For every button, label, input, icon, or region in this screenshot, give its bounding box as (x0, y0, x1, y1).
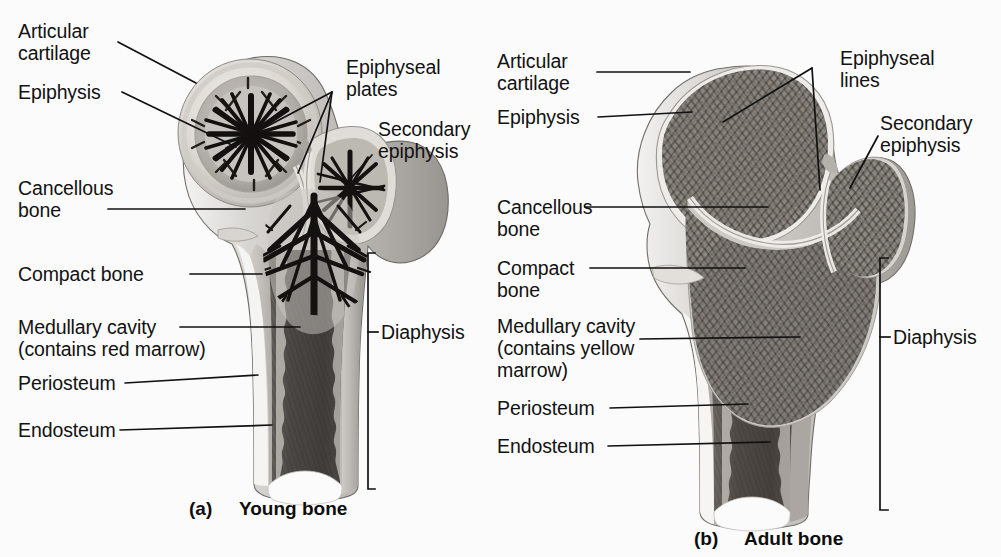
panel-marker-a: (a) (189, 498, 212, 520)
label-diaphysis-a: Diaphysis (381, 321, 465, 343)
diaphysis-bracket-a (368, 253, 378, 489)
label-medullary-cavity-a: Medullary cavity (contains red marrow) (18, 316, 206, 360)
label-cancellous-bone-a: Cancellous bone (18, 177, 113, 221)
label-epiphysis-b: Epiphysis (497, 106, 580, 128)
leader-periosteum-a (125, 375, 258, 383)
label-compact-bone-b: Compact bone (497, 257, 574, 301)
label-endosteum-a: Endosteum (18, 419, 116, 441)
label-secondary-epiphysis-b: Secondary epiphysis (880, 112, 972, 156)
leader-endosteum-a (120, 425, 272, 430)
figure-canvas: Articular cartilage Epiphysis Epiphyseal… (0, 0, 1001, 557)
label-epiphyseal-lines-b: Epiphyseal lines (840, 47, 934, 91)
label-articular-cartilage-b: Articular cartilage (497, 50, 570, 94)
panel-caption-b: Adult bone (744, 528, 843, 550)
label-medullary-cavity-b: Medullary cavity (contains yellow marrow… (497, 315, 635, 381)
label-compact-bone-a: Compact bone (18, 263, 144, 285)
label-secondary-epiphysis-a: Secondary epiphysis (378, 118, 470, 162)
leader-articular-cartilage-a (118, 42, 196, 83)
panel-marker-b: (b) (694, 528, 718, 550)
label-epiphysis-a: Epiphysis (18, 81, 101, 103)
label-endosteum-b: Endosteum (497, 435, 595, 457)
diaphysis-bracket-b (880, 258, 890, 510)
panel-caption-a: Young bone (239, 498, 347, 520)
label-epiphyseal-plates-a: Epiphyseal plates (346, 56, 440, 100)
label-articular-cartilage-a: Articular cartilage (18, 20, 91, 64)
label-cancellous-bone-b: Cancellous bone (497, 196, 592, 240)
label-periosteum-b: Periosteum (497, 397, 595, 419)
label-diaphysis-b: Diaphysis (893, 326, 977, 348)
label-periosteum-a: Periosteum (18, 372, 116, 394)
